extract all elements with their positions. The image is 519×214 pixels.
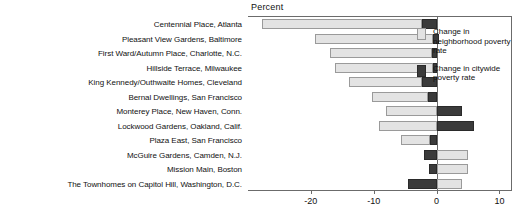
category-label: The Townhomes on Capitol Hill, Washingto…	[0, 180, 242, 189]
category-label: Mission Main, Boston	[0, 165, 242, 174]
legend-entry: Change in citywide poverty rate	[417, 64, 517, 83]
bar-segment	[349, 77, 423, 87]
bar-segment	[401, 135, 430, 145]
bar-segment	[437, 179, 462, 189]
x-tick	[499, 190, 500, 194]
bar-segment	[424, 150, 437, 160]
bar-segment	[408, 179, 436, 189]
legend-swatch-dark	[417, 65, 426, 77]
bar-segment	[437, 121, 475, 131]
bar-segment	[372, 92, 429, 102]
category-label: McGuire Gardens, Camden, N.J.	[0, 151, 242, 160]
x-tick	[437, 190, 438, 194]
x-tick	[374, 190, 375, 194]
legend-entry: Change in neighborhood poverty rate	[417, 27, 517, 56]
chart-legend: Change in neighborhood poverty rateChang…	[417, 27, 517, 91]
category-label: King Kennedy/Outhwaite Homes, Cleveland	[0, 78, 242, 87]
category-axis-labels: Centennial Place, AtlantaPleasant View G…	[0, 18, 246, 190]
category-label: Bernal Dwellings, San Francisco	[0, 93, 242, 102]
bar-segment	[437, 164, 468, 174]
bar-segment	[437, 150, 468, 160]
x-axis-line	[248, 190, 512, 191]
bar-segment	[386, 106, 436, 116]
bar-segment	[437, 106, 462, 116]
category-label: Pleasant View Gardens, Baltimore	[0, 35, 242, 44]
x-tick	[311, 190, 312, 194]
legend-label: Change in neighborhood poverty rate	[433, 27, 517, 56]
category-label: Monterey Place, New Haven, Conn.	[0, 107, 242, 116]
legend-label: Change in citywide poverty rate	[433, 64, 517, 83]
bar-segment	[429, 164, 437, 174]
category-label: First Ward/Autumn Place, Charlotte, N.C.	[0, 49, 242, 58]
bar-segment	[379, 121, 437, 131]
x-tick-label: -10	[367, 196, 380, 206]
category-label: Plaza East, San Francisco	[0, 136, 242, 145]
x-tick-label: -20	[304, 196, 317, 206]
bar-segment	[430, 135, 436, 145]
bar-segment	[428, 92, 436, 102]
category-label: Centennial Place, Atlanta	[0, 20, 242, 29]
chart-container: Percent Centennial Place, AtlantaPleasan…	[0, 0, 519, 214]
x-tick-label: 0	[434, 196, 439, 206]
bar-segment	[262, 19, 422, 29]
legend-swatch-light	[417, 28, 426, 40]
bar-segment	[315, 34, 433, 44]
x-tick-label: 10	[494, 196, 504, 206]
category-label: Lockwood Gardens, Oakland, Calif.	[0, 122, 242, 131]
axis-title-percent: Percent	[251, 2, 283, 12]
category-label: Hillside Terrace, Milwaukee	[0, 64, 242, 73]
